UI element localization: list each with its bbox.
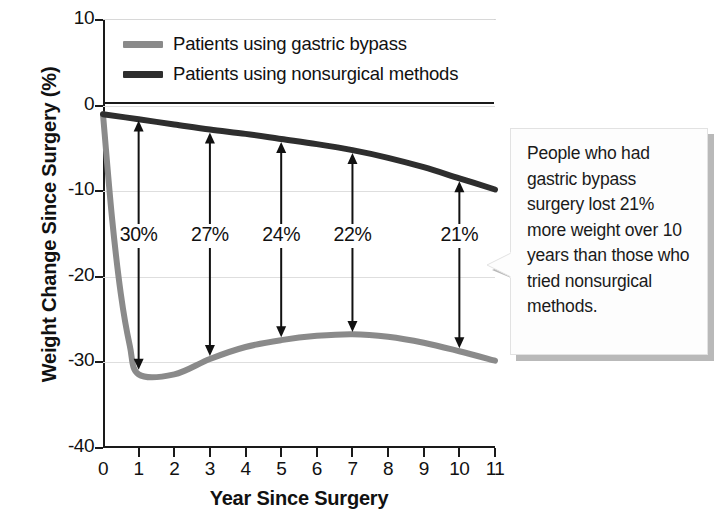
y-axis-tick [95, 19, 103, 21]
y-axis-label: 0 [14, 93, 94, 115]
y-axis-tick [95, 361, 103, 363]
y-axis-tick [95, 105, 103, 107]
x-axis-label: 5 [261, 458, 301, 480]
gridline [103, 191, 495, 192]
x-axis-tick [351, 448, 353, 457]
callout-box: People who had gastric bypass surgery lo… [510, 128, 708, 355]
legend-item-gastric-bypass: Patients using gastric bypass [123, 29, 494, 59]
x-axis-label: 6 [297, 458, 337, 480]
x-axis-tick [458, 448, 460, 457]
y-axis-label: -30 [14, 349, 94, 371]
annotation-percent-label: 30% [104, 223, 174, 246]
annotation-percent-label: 27% [175, 223, 245, 246]
x-axis-tick [245, 448, 247, 457]
y-axis-tick [95, 447, 103, 449]
x-axis-tick [423, 448, 425, 457]
x-axis-tick [280, 448, 282, 457]
y-axis-label: 10 [14, 7, 94, 29]
x-axis-tick [387, 448, 389, 457]
y-axis-label: -40 [14, 435, 94, 457]
x-axis-label: 8 [368, 458, 408, 480]
legend-label-gastric-bypass: Patients using gastric bypass [173, 33, 407, 55]
annotation-percent-label: 24% [246, 223, 316, 246]
legend-swatch-gastric-bypass [123, 41, 163, 48]
callout-text: People who had gastric bypass surgery lo… [527, 141, 697, 320]
x-axis-tick [209, 448, 211, 457]
legend-swatch-nonsurgical [123, 71, 163, 78]
chart-root: Weight Change Since Surgery (%) Year Sin… [0, 0, 721, 525]
x-axis-label: 2 [154, 458, 194, 480]
x-axis-tick [173, 448, 175, 457]
annotation-percent-label: 22% [317, 223, 387, 246]
gridline [103, 106, 495, 107]
y-axis-title: Weight Change Since Surgery (%) [38, 10, 61, 440]
x-axis-label: 9 [404, 458, 444, 480]
y-axis-tick [95, 276, 103, 278]
legend-label-nonsurgical: Patients using nonsurgical methods [173, 63, 458, 85]
x-axis-label: 10 [439, 458, 479, 480]
annotation-percent-label: 21% [424, 223, 494, 246]
x-axis-label: 7 [332, 458, 372, 480]
gridline [103, 277, 495, 278]
x-axis-title: Year Since Surgery [103, 487, 495, 510]
legend: Patients using gastric bypass Patients u… [105, 21, 494, 104]
x-axis-tick [316, 448, 318, 457]
x-axis-label: 3 [190, 458, 230, 480]
x-axis-label: 11 [475, 458, 515, 480]
gridline [103, 362, 495, 363]
x-axis-tick [494, 448, 496, 457]
callout-tail [487, 252, 513, 278]
x-axis-label: 4 [226, 458, 266, 480]
x-axis-label: 0 [83, 458, 123, 480]
y-axis-label: -10 [14, 178, 94, 200]
legend-item-nonsurgical: Patients using nonsurgical methods [123, 59, 494, 89]
y-axis-label: -20 [14, 264, 94, 286]
x-axis-label: 1 [119, 458, 159, 480]
y-axis-tick [95, 190, 103, 192]
x-axis-tick [138, 448, 140, 457]
